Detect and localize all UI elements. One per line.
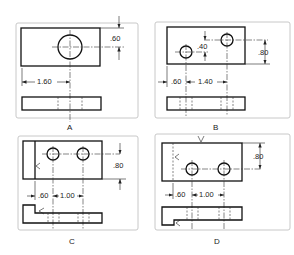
panel-a-dim-vertical: .60 (110, 34, 120, 43)
panel-d-dim-spacing: 1.00 (199, 190, 214, 199)
panel-c-dim-spacing: 1.00 (60, 191, 75, 200)
panel-c-label: C (69, 237, 75, 246)
panel-a-side-view (22, 97, 101, 110)
panel-d-side-surface-mark-icon (176, 220, 180, 226)
panel-b-dim-spacing: 1.40 (198, 77, 213, 86)
panel-d-top-view (162, 143, 242, 181)
panel-d-dim-left: .60 (175, 190, 185, 199)
panel-d-label: D (214, 237, 220, 246)
panel-c-side-view (23, 205, 102, 223)
panel-d-frame (155, 134, 290, 230)
panel-a-dim-horizontal: 1.60 (37, 77, 52, 86)
panel-b-dim-vertical: .80 (258, 48, 268, 57)
panel-a-label: A (67, 123, 73, 132)
panel-d-surface-mark-left-icon (175, 154, 179, 160)
panel-b-dim-hole-offset: .40 (197, 42, 207, 51)
panel-c-surface-mark-icon (36, 163, 40, 169)
panel-b: .40 .80 .60 1.40 B (155, 22, 290, 132)
panel-a: .60 1.60 A (16, 16, 138, 132)
drawing-canvas: .60 1.60 A .40 .80 .60 (0, 0, 294, 255)
panel-b-dim-left: .60 (171, 77, 181, 86)
panel-d-surface-mark-top-icon (198, 136, 204, 142)
panel-d: .80 .60 1.00 D (155, 134, 290, 246)
panel-c-dim-vertical: .80 (113, 161, 123, 170)
panel-c: .80 .60 1.00 C (18, 136, 138, 246)
panel-c-dim-left: .60 (38, 191, 48, 200)
panel-b-label: B (213, 123, 218, 132)
panel-d-dim-vertical: .80 (253, 152, 263, 161)
